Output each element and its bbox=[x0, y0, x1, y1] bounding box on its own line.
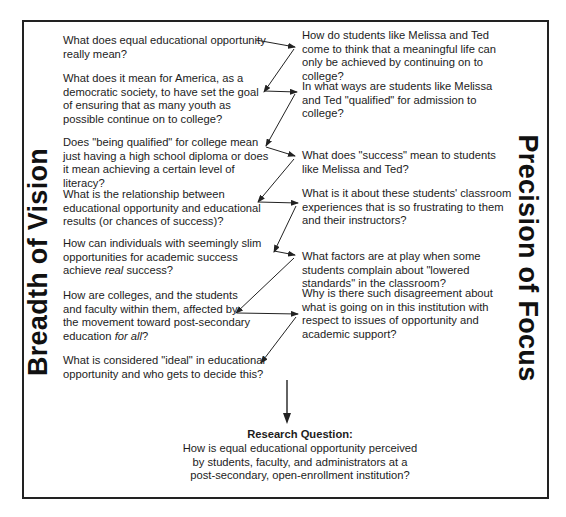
research-question-text: How is equal educational opportunity per… bbox=[180, 442, 420, 483]
research-question-block: Research Question: How is equal educatio… bbox=[180, 428, 420, 483]
research-question-title: Research Question: bbox=[180, 428, 420, 442]
